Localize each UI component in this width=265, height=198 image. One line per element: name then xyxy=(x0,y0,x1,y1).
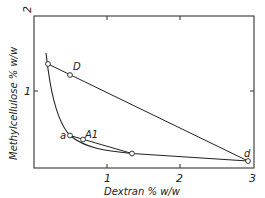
point-lower xyxy=(130,151,135,156)
label-a: a xyxy=(60,130,66,141)
point-d xyxy=(246,159,251,164)
y-tick-label-2: 2 xyxy=(21,6,34,13)
label-D: D xyxy=(73,61,81,72)
point-upper xyxy=(46,62,51,67)
plot-frame xyxy=(34,16,254,168)
x-tick-label-3: 3 xyxy=(249,172,256,185)
x-tick-label-1: 1 xyxy=(104,172,111,185)
x-axis-label: Dextran % w/w xyxy=(104,186,181,197)
x-tick-label-2: 2 xyxy=(176,172,183,185)
y-axis-label: Methylcellulose % w/w xyxy=(8,46,19,160)
tie-line-D xyxy=(48,64,248,161)
label-A1: A1 xyxy=(84,129,98,140)
point-a xyxy=(68,133,73,138)
tie-line-A1 xyxy=(70,136,132,154)
y-tick-label-1: 1 xyxy=(24,85,31,98)
phase-diagram-chart: 1 2 3 1 2 Dextran % w/w Methylcellulose … xyxy=(0,0,265,198)
point-D xyxy=(68,73,73,78)
label-d: d xyxy=(244,148,251,159)
